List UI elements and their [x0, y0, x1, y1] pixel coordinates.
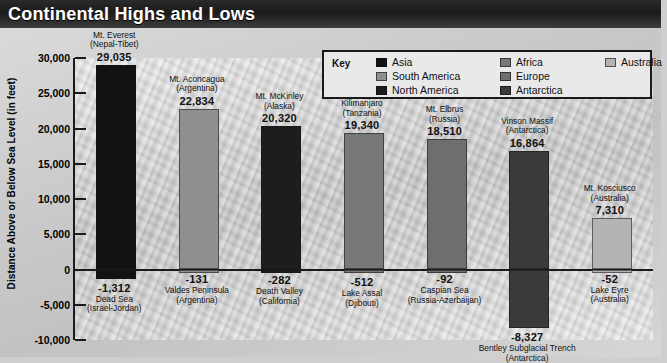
legend-item[interactable]: North America — [376, 84, 500, 97]
bar-low[interactable] — [344, 270, 384, 274]
high-point-value: 29,035 — [54, 51, 174, 64]
low-point-name: Bentley Subglacial Trench — [479, 343, 576, 353]
legend-item[interactable]: Australia — [605, 56, 667, 69]
legend-swatch-icon — [376, 86, 387, 95]
low-point-place: (California) — [259, 296, 300, 306]
low-point-place: (Russia-Azerbaijan) — [408, 295, 482, 305]
high-point-place: (Russia) — [429, 114, 460, 124]
legend-item-label: Asia — [392, 56, 412, 69]
high-point-name: Mt. McKinley — [255, 91, 303, 101]
high-point-place: (Alaska) — [264, 101, 295, 111]
legend-item-label: Antarctica — [516, 84, 563, 97]
bar-low[interactable] — [179, 270, 219, 273]
high-point-value: 7,310 — [550, 204, 667, 217]
legend-title: Key — [332, 58, 350, 69]
high-point-place: (Argentina) — [176, 83, 217, 93]
high-point-place: (Nepal-Tibet) — [90, 39, 139, 49]
y-tick-label: 20,000 — [38, 123, 70, 135]
high-point-name: Mt. Kosciusco — [584, 183, 636, 193]
low-point-name: Lake Assal — [342, 288, 383, 298]
y-tick-label: 25,000 — [38, 87, 70, 99]
high-point-place: (Antarctica) — [506, 125, 549, 135]
legend-column: AfricaEuropeAntarctica — [500, 56, 605, 97]
legend-item-label: South America — [392, 70, 460, 83]
y-tick-label: 5,000 — [44, 228, 70, 240]
high-point-place: (Tanzania) — [342, 108, 381, 118]
chart-frame: Distance Above or Below Sea Level (in fe… — [0, 28, 661, 357]
legend-item[interactable]: Europe — [500, 70, 605, 83]
bar-high[interactable] — [592, 218, 632, 270]
low-point-place: (Argentina) — [176, 295, 217, 305]
chart-title-bar: Continental Highs and Lows — [0, 0, 661, 28]
low-point-name: Caspian Sea — [421, 285, 469, 295]
bar-low[interactable] — [427, 270, 467, 273]
legend-item-label: Africa — [516, 56, 543, 69]
low-point-label: -52Lake Eyre(Australia) — [555, 273, 665, 305]
legend-swatch-icon — [500, 72, 511, 81]
bar-high[interactable] — [509, 151, 549, 270]
bar-high[interactable] — [179, 109, 219, 270]
low-point-name: Death Valley — [256, 286, 303, 296]
high-point-name: Vinson Massif — [501, 116, 553, 126]
bar-column[interactable] — [509, 58, 549, 340]
high-point-value: 16,864 — [467, 137, 587, 150]
high-point-name: Mt. Aconcagua — [169, 74, 224, 84]
low-point-name: Dead Sea — [96, 294, 133, 304]
legend-swatch-icon — [500, 58, 511, 67]
legend-column: AsiaSouth AmericaNorth America — [376, 56, 500, 97]
low-point-label: -8,327Bentley Subglacial Trench(Antarcti… — [472, 331, 582, 363]
legend-item[interactable]: Antarctica — [500, 84, 605, 97]
bar-high[interactable] — [344, 133, 384, 269]
high-point-label: Mt. Everest(Nepal-Tibet)29,035 — [54, 31, 174, 64]
low-point-name: Valdes Peninsula — [165, 285, 229, 295]
bar-high[interactable] — [96, 65, 136, 270]
high-point-label: Mt. Kosciusco(Australia)7,310 — [550, 184, 667, 217]
low-point-label: -92Caspian Sea(Russia-Azerbaijan) — [390, 273, 500, 305]
legend-swatch-icon — [376, 58, 387, 67]
bar-low[interactable] — [261, 270, 301, 273]
legend-swatch-icon — [376, 72, 387, 81]
high-point-name: Mt. Everest — [93, 30, 135, 40]
legend-item-label: Europe — [516, 70, 550, 83]
bar-high[interactable] — [427, 139, 467, 269]
legend-column: Australia — [605, 56, 667, 97]
y-tick-label: 15,000 — [38, 158, 70, 170]
low-point-place: (Djibouti) — [345, 298, 379, 308]
legend-item[interactable]: Africa — [500, 56, 605, 69]
low-point-name: Lake Eyre — [591, 285, 629, 295]
bar-high[interactable] — [261, 126, 301, 269]
y-tick-label: 0 — [64, 264, 70, 276]
legend-item-label: Australia — [621, 56, 662, 69]
low-point-place: (Australia) — [591, 294, 629, 304]
legend-columns: AsiaSouth AmericaNorth AmericaAfricaEuro… — [376, 56, 667, 97]
legend-item[interactable]: South America — [376, 70, 500, 83]
legend: Key AsiaSouth AmericaNorth AmericaAfrica… — [322, 50, 652, 99]
page-title: Continental Highs and Lows — [0, 4, 255, 25]
legend-item-label: North America — [392, 84, 459, 97]
legend-swatch-icon — [605, 58, 616, 67]
bar-low[interactable] — [509, 270, 549, 329]
y-tick-label: 10,000 — [38, 193, 70, 205]
high-point-label: Vinson Massif(Antarctica)16,864 — [467, 117, 587, 150]
legend-swatch-icon — [500, 86, 511, 95]
high-point-place: (Australia) — [591, 193, 629, 203]
bar-low[interactable] — [96, 270, 136, 279]
low-point-place: (Israel-Jordan) — [87, 303, 141, 313]
y-tick-label: -10,000 — [34, 334, 70, 346]
legend-item[interactable]: Asia — [376, 56, 500, 69]
high-point-name: Kilimanjaro — [341, 98, 382, 108]
y-axis-title: Distance Above or Below Sea Level (in fe… — [6, 34, 17, 334]
high-point-name: Mt. Elbrus — [426, 104, 464, 114]
low-point-place: (Antarctica) — [506, 353, 549, 363]
